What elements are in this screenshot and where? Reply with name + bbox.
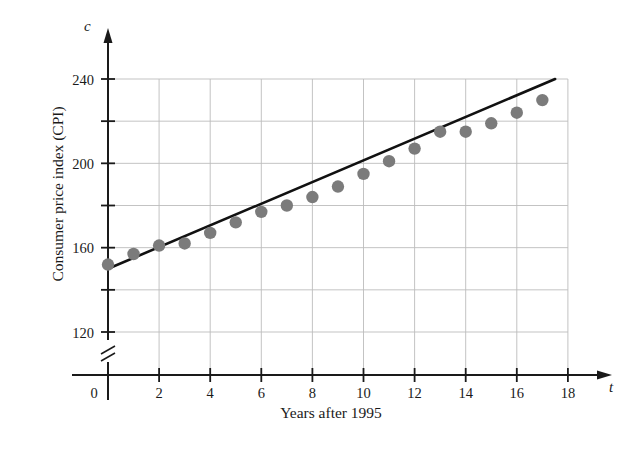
x-axis-tick-label: 6 <box>258 385 265 401</box>
ticks-layer <box>101 79 568 382</box>
data-point <box>460 126 472 138</box>
data-point <box>255 206 267 218</box>
data-point <box>127 248 139 260</box>
x-axis-tick-label: 12 <box>407 385 422 401</box>
x-axis-tick-label: 8 <box>309 385 316 401</box>
data-point <box>153 239 165 251</box>
x-axis-tick-label: 16 <box>510 385 525 401</box>
data-point <box>281 199 293 211</box>
y-axis-tick-label: 160 <box>72 240 94 256</box>
grid-layer <box>108 79 568 375</box>
chart-canvas: 120160200240024681012141618 <box>0 0 632 453</box>
data-point <box>434 126 446 138</box>
data-point <box>332 180 344 192</box>
x-axis-tick-label: 18 <box>561 385 576 401</box>
data-point <box>306 191 318 203</box>
x-axis-tick-label: 2 <box>155 385 162 401</box>
data-point <box>536 94 548 106</box>
axes-layer <box>72 28 612 400</box>
y-axis-tick-label: 120 <box>72 325 94 341</box>
x-axis-tick-label: 14 <box>458 385 473 401</box>
y-axis-tick-label: 200 <box>72 156 94 172</box>
y-axis-arrowhead <box>104 28 113 43</box>
x-axis-tick-label: 0 <box>90 385 97 401</box>
x-axis-tick-label: 4 <box>207 385 215 401</box>
data-point <box>102 258 114 270</box>
data-point <box>178 237 190 249</box>
trend-line-segment <box>108 79 555 269</box>
data-point <box>511 107 523 119</box>
y-axis-tick-label: 240 <box>72 72 94 88</box>
data-point <box>230 216 242 228</box>
x-axis-tick-label: 10 <box>356 385 371 401</box>
data-point <box>357 168 369 180</box>
data-point <box>383 155 395 167</box>
data-point <box>204 227 216 239</box>
trend-line <box>108 79 555 269</box>
x-axis-arrowhead <box>597 371 612 380</box>
data-point <box>485 117 497 129</box>
y-axis-break-symbol <box>101 340 115 362</box>
cpi-scatter-figure: c t Consumer price index (CPI) Years aft… <box>0 0 632 453</box>
data-point <box>408 142 420 154</box>
